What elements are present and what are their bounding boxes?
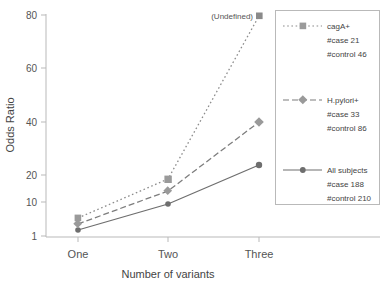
series-hpylori [73,117,263,228]
data-point-hpylori-three [254,117,264,127]
data-point-all-two [165,201,171,207]
legend-label-all-subjects: All subjects [327,166,367,175]
chart-svg: 80 60 40 20 10 1 One Two Three Number of… [0,0,389,285]
data-point-caga-two [164,176,171,183]
data-point-hpylori-two [163,186,172,195]
legend-control-caga: #control 46 [327,50,367,59]
x-axis-ticks: One Two Three [68,237,274,260]
legend-label-hpylori: H.pylori+ [327,96,359,105]
legend-case-hpylori: #case 33 [327,110,360,119]
undefined-annotation: (Undefined) [211,12,253,21]
x-tick-label-two: Two [158,248,178,260]
legend-marker-all-subjects [300,167,306,173]
y-tick-label-60: 60 [26,63,38,74]
y-tick-label-80: 80 [26,10,38,21]
data-point-caga-three [256,13,263,20]
data-point-all-three [256,162,262,168]
y-tick-label-40: 40 [26,117,38,128]
series-all-subjects-line [78,165,259,230]
y-tick-label-10: 10 [26,197,38,208]
y-axis-ticks: 80 60 40 20 10 1 [26,10,46,242]
odds-ratio-line-chart: 80 60 40 20 10 1 One Two Three Number of… [0,0,389,285]
y-tick-label-1: 1 [31,231,37,242]
series-all-subjects [75,162,262,233]
x-tick-label-one: One [68,248,89,260]
series-hpylori-line [78,122,259,224]
data-point-all-one [75,227,81,233]
legend: cagA+ #case 21 #control 46 H.pylori+ #ca… [276,11,380,205]
legend-control-all-subjects: #control 210 [327,194,372,203]
legend-label-caga: cagA+ [327,22,350,31]
legend-marker-caga [300,23,307,30]
x-axis-title: Number of variants [122,268,215,280]
data-point-caga-one [75,215,82,222]
legend-case-all-subjects: #case 188 [327,180,364,189]
x-tick-label-three: Three [245,248,274,260]
legend-control-hpylori: #control 86 [327,124,367,133]
y-tick-label-20: 20 [26,170,38,181]
legend-case-caga: #case 21 [327,36,360,45]
y-axis-title: Odds Ratio [4,97,16,152]
